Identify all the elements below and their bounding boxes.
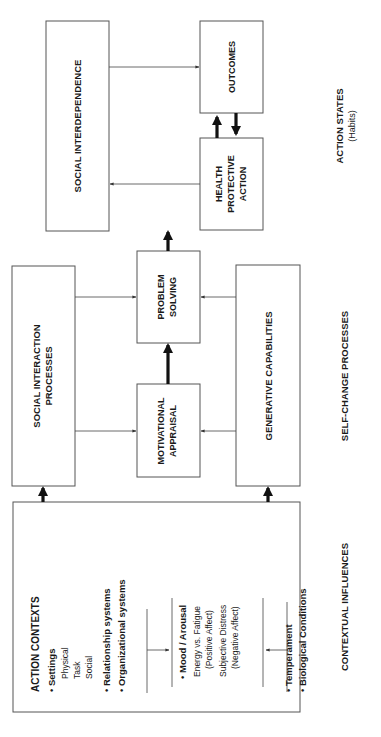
health-label-1: HEALTH	[214, 166, 224, 202]
label-self-change-processes: SELF-CHANGE PROCESSES	[339, 311, 350, 441]
mood-line-2: (Positive Affect)	[204, 610, 214, 669]
organizational-systems: • Organizational systems	[116, 579, 127, 692]
social-interdependence-box: SOCIAL INTERDEPENDENCE	[46, 21, 109, 231]
motivational-label-1: MOTIVATIONAL	[156, 397, 166, 465]
health-protective-action-box: HEALTH PROTECTIVE ACTION	[200, 138, 263, 230]
mood-arousal-label: • Mood / Arousal	[177, 605, 188, 679]
health-label-2: PROTECTIVE	[226, 155, 236, 213]
label-habits: (Habits)	[347, 110, 357, 142]
settings-item-task: Task	[72, 661, 82, 679]
diagram-canvas: ACTION CONTEXTS • Settings Physical Task…	[0, 0, 381, 737]
outcomes-box: OUTCOMES	[200, 21, 263, 113]
action-contexts-box: ACTION CONTEXTS • Settings Physical Task…	[13, 502, 308, 712]
label-action-states: ACTION STATES	[334, 88, 345, 163]
diagram-svg: ACTION CONTEXTS • Settings Physical Task…	[0, 0, 381, 737]
generative-capabilities-box: GENERATIVE CAPABILITIES	[236, 265, 300, 486]
problem-solving-box: PROBLEM SOLVING	[137, 251, 200, 343]
label-contextual-influences: CONTEXTUAL INFLUENCES	[339, 543, 350, 671]
motivational-appraisal-box: MOTIVATIONAL APPRAISAL	[137, 384, 200, 477]
mood-line-4: (Negative Affect)	[230, 606, 240, 669]
settings-item-physical: Physical	[60, 647, 70, 679]
problem-solving-label-2: SOLVING	[168, 277, 178, 317]
biological-conditions: • Biological Conditions	[297, 588, 308, 692]
social-interaction-label-2: PROCESSES	[43, 346, 54, 405]
settings-item-social: Social	[84, 656, 94, 679]
generative-capabilities-label: GENERATIVE CAPABILITIES	[263, 312, 274, 441]
outcomes-label: OUTCOMES	[227, 41, 237, 93]
social-interaction-processes-box: SOCIAL INTERACTION PROCESSES	[12, 266, 75, 486]
mood-line-1: Energy vs. Fatigue	[192, 606, 202, 677]
relationship-systems: • Relationship systems	[101, 588, 112, 692]
health-label-3: ACTION	[238, 167, 248, 202]
action-contexts-title: ACTION CONTEXTS	[30, 596, 41, 692]
social-interdependence-label: SOCIAL INTERDEPENDENCE	[72, 60, 83, 193]
settings-label: • Settings	[46, 649, 57, 692]
social-interaction-label-1: SOCIAL INTERACTION	[31, 324, 42, 427]
temperament: • Temperament	[283, 624, 294, 692]
motivational-label-2: APPRAISAL	[168, 405, 178, 458]
problem-solving-label-1: PROBLEM	[156, 275, 166, 320]
mood-line-3: Subjective Distress	[218, 605, 228, 677]
